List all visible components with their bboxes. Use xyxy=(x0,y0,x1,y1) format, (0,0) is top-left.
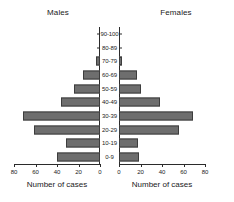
value-axis-tick-label: 80 xyxy=(197,169,213,175)
age-group-label: 60-69 xyxy=(100,68,119,82)
age-group-label: 80-89 xyxy=(100,41,119,55)
pyramid-row xyxy=(14,54,100,68)
value-axis-tick-label: 0 xyxy=(111,169,127,175)
value-axis-tick xyxy=(162,164,163,167)
females-axis-caption: Number of cases xyxy=(113,180,211,189)
males-panel-title: Males xyxy=(33,8,83,17)
males-axis-caption: Number of cases xyxy=(8,180,106,189)
bar xyxy=(119,84,141,93)
pyramid-row xyxy=(14,150,100,164)
pyramid-row xyxy=(14,27,100,41)
value-axis-tick-label: 60 xyxy=(28,169,44,175)
pyramid-row xyxy=(119,109,205,123)
bar xyxy=(23,112,100,121)
age-group-label: 70-79 xyxy=(100,54,119,68)
value-axis-tick-label: 0 xyxy=(92,169,108,175)
bar xyxy=(119,153,139,162)
value-axis-tick-label: 20 xyxy=(71,169,87,175)
pyramid-row xyxy=(14,41,100,55)
pyramid-row xyxy=(119,96,205,110)
age-group-label: 0-9 xyxy=(100,150,119,164)
bar xyxy=(74,84,100,93)
pyramid-row xyxy=(14,96,100,110)
males-plot-panel xyxy=(14,27,100,164)
pyramid-row xyxy=(14,82,100,96)
age-group-label: 10-19 xyxy=(100,137,119,151)
females-plot-panel xyxy=(119,27,205,164)
value-axis-tick xyxy=(57,164,58,167)
pyramid-row xyxy=(14,123,100,137)
age-group-label: 90-100 xyxy=(100,27,119,41)
bar xyxy=(119,139,138,148)
population-pyramid-chart: Males Females 90-10080-8970-7960-6950-59… xyxy=(0,0,234,202)
pyramid-row xyxy=(119,137,205,151)
age-group-labels: 90-10080-8970-7960-6950-5940-4930-3920-2… xyxy=(100,27,119,164)
bar xyxy=(119,70,137,79)
pyramid-row xyxy=(119,54,205,68)
value-axis-tick xyxy=(205,164,206,167)
value-axis-tick-label: 20 xyxy=(133,169,149,175)
bar xyxy=(119,98,160,107)
value-axis-tick-label: 40 xyxy=(154,169,170,175)
pyramid-row xyxy=(119,82,205,96)
value-axis-tick xyxy=(79,164,80,167)
age-group-label: 20-29 xyxy=(100,123,119,137)
value-axis-tick xyxy=(100,164,101,167)
category-tick xyxy=(119,33,122,34)
pyramid-row xyxy=(119,150,205,164)
pyramid-row xyxy=(119,41,205,55)
pyramid-row xyxy=(14,68,100,82)
value-axis-tick-label: 60 xyxy=(176,169,192,175)
age-group-label: 50-59 xyxy=(100,82,119,96)
bar xyxy=(119,112,193,121)
value-axis-tick xyxy=(14,164,15,167)
value-axis-tick xyxy=(184,164,185,167)
value-axis-tick xyxy=(141,164,142,167)
bar xyxy=(66,139,100,148)
value-axis-tick xyxy=(36,164,37,167)
value-axis-tick-label: 80 xyxy=(6,169,22,175)
pyramid-row xyxy=(14,137,100,151)
pyramid-row xyxy=(119,123,205,137)
category-tick xyxy=(119,47,122,48)
males-bar-rows xyxy=(14,27,100,164)
pyramid-row xyxy=(119,68,205,82)
bar xyxy=(61,98,100,107)
bar xyxy=(34,125,100,134)
pyramid-row xyxy=(14,109,100,123)
value-axis-tick-label: 40 xyxy=(49,169,65,175)
females-bar-rows xyxy=(119,27,205,164)
age-group-label: 40-49 xyxy=(100,96,119,110)
females-panel-title: Females xyxy=(148,8,204,17)
pyramid-row xyxy=(119,27,205,41)
age-group-label: 30-39 xyxy=(100,109,119,123)
value-axis-tick xyxy=(119,164,120,167)
bar xyxy=(57,153,100,162)
bar xyxy=(119,57,122,66)
bar xyxy=(83,70,100,79)
bar xyxy=(119,125,179,134)
